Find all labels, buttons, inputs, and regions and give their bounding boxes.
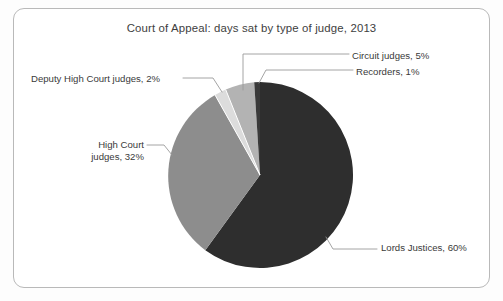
- data-label-high-court-judges: High Court judges, 32%: [58, 139, 144, 164]
- leader-line-recorders: [259, 70, 353, 83]
- pie-chart-figure: Court of Appeal: days sat by type of jud…: [0, 0, 503, 301]
- leader-line-high-court: [147, 145, 172, 155]
- data-label-high-court-judges-line1: High Court: [58, 139, 144, 151]
- data-label-circuit-judges: Circuit judges, 5%: [352, 50, 429, 62]
- leader-line-deputy: [183, 78, 222, 92]
- data-label-lords-justices: Lords Justices, 60%: [381, 242, 467, 254]
- leader-line-lords-justices: [326, 237, 377, 249]
- data-label-high-court-judges-line2: judges, 32%: [58, 151, 144, 163]
- data-label-deputy-high-court-judges: Deputy High Court judges, 2%: [31, 73, 160, 85]
- data-label-recorders: Recorders, 1%: [356, 66, 419, 78]
